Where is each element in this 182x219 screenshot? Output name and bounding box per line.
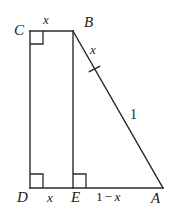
right-angle-marker-C [30,31,43,44]
vertex-label-A: A [151,191,160,206]
vertex-label-B: B [84,15,93,30]
right-angle-marker-E [73,174,86,188]
side-label-bottom-EA-minus: − [103,189,115,204]
vertex-label-E: E [71,190,80,205]
segment-BA-hypotenuse [73,31,163,188]
side-label-bottom-EA-x: x [114,189,120,204]
side-label-bottom-DE: x [47,191,53,204]
right-angle-marker-D [30,174,43,188]
side-label-bottom-EA: 1−x [96,190,120,204]
vertex-label-D: D [17,190,28,205]
side-label-bottom-EA-one: 1 [96,189,103,204]
vertex-label-C: C [14,23,24,38]
side-label-hypotenuse-length: 1 [130,108,137,122]
side-label-hypotenuse-upper: x [90,43,96,56]
side-label-top-CB: x [43,13,49,26]
geometry-figure: C B D E A x x 1 x 1−x [0,0,182,219]
figure-canvas [0,0,182,219]
tick-mark-on-BA [89,63,99,75]
